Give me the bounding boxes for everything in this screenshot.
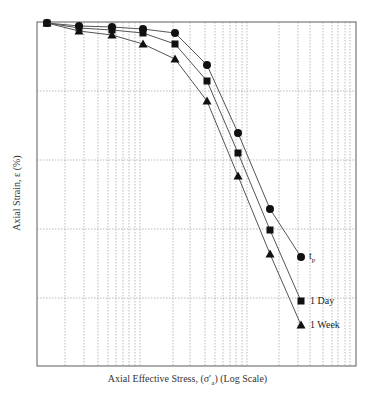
- triangle-marker: [203, 97, 212, 105]
- legend-tp: tp: [309, 250, 315, 264]
- square-marker: [140, 30, 147, 37]
- legend-tp-sub: p: [312, 256, 316, 264]
- series-line: [47, 23, 301, 301]
- square-marker: [172, 41, 179, 48]
- series-t_p: [43, 19, 305, 261]
- circle-marker: [234, 129, 242, 137]
- y-axis-label: Axial Strain, ε (%): [11, 155, 22, 230]
- triangle-marker: [171, 55, 180, 63]
- plot-frame: [37, 22, 356, 366]
- circle-marker: [266, 205, 274, 213]
- square-marker: [298, 298, 305, 305]
- circle-marker: [203, 61, 211, 69]
- triangle-marker: [297, 321, 306, 329]
- data-series: [43, 19, 306, 329]
- square-marker: [267, 227, 274, 234]
- series-line: [47, 23, 301, 325]
- triangle-marker: [266, 250, 275, 258]
- grid-lines: [37, 22, 356, 366]
- square-marker: [235, 150, 242, 157]
- circle-marker: [297, 253, 305, 261]
- series-1-week: [43, 19, 306, 329]
- circle-marker: [171, 29, 179, 37]
- x-axis-label: Axial Effective Stress, (σ′a) (Log Scale…: [0, 373, 375, 387]
- legend-1-day: 1 Day: [310, 295, 334, 306]
- triangle-marker: [234, 172, 243, 180]
- legend-1-week: 1 Week: [310, 319, 340, 330]
- x-axis-label-subscript: a: [211, 379, 214, 387]
- chart-canvas: [0, 0, 375, 400]
- square-marker: [204, 78, 211, 85]
